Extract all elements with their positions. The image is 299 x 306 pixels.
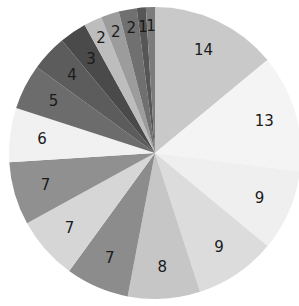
slice-label: 1 xyxy=(146,17,156,35)
slice-label: 2 xyxy=(111,23,121,41)
slice-label: 5 xyxy=(49,92,59,110)
slice-label: 14 xyxy=(194,41,213,59)
slice-label: 7 xyxy=(65,219,75,237)
slice-label: 13 xyxy=(255,112,274,130)
slice-label: 2 xyxy=(126,19,136,37)
pie-chart: 1413998777654322211 xyxy=(0,0,299,306)
slice-label: 9 xyxy=(214,238,224,256)
slice-label: 2 xyxy=(96,29,106,47)
slice-label: 4 xyxy=(67,66,77,84)
slice-label: 6 xyxy=(37,130,47,148)
slice-label: 8 xyxy=(157,258,167,276)
pie-slices xyxy=(9,7,299,299)
slice-label: 7 xyxy=(41,176,51,194)
slice-label: 9 xyxy=(255,189,265,207)
slice-label: 7 xyxy=(105,249,115,267)
slice-label: 3 xyxy=(86,50,96,68)
